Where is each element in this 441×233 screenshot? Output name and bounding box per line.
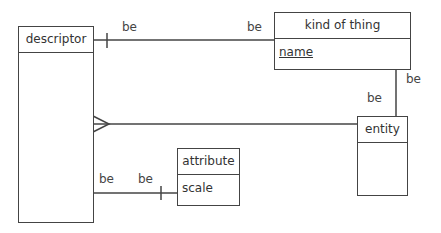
entity-entity[interactable]: entity	[357, 116, 408, 196]
attribute-name: name	[275, 39, 410, 65]
role-label: be	[367, 91, 382, 105]
entity-attribute[interactable]: attribute scale	[177, 148, 240, 206]
entity-title: entity	[358, 117, 407, 143]
role-label: be	[122, 20, 137, 34]
entity-title: descriptor	[19, 27, 93, 53]
entity-title: kind of thing	[275, 13, 410, 39]
role-label: be	[406, 72, 421, 86]
entity-descriptor[interactable]: descriptor	[18, 26, 94, 223]
entity-title: attribute	[178, 149, 239, 175]
attribute-scale: scale	[178, 175, 239, 201]
role-label: be	[247, 20, 262, 34]
role-label: be	[138, 172, 153, 186]
role-label: be	[99, 172, 114, 186]
entity-kind-of-thing[interactable]: kind of thing name	[274, 12, 411, 70]
